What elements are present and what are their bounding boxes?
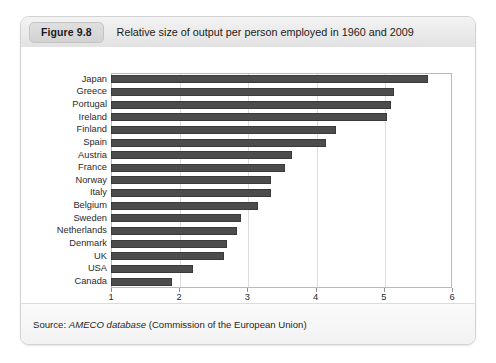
y-axis-tick: Denmark (21, 237, 107, 250)
source-suffix: (Commission of the European Union) (149, 319, 307, 330)
source-prefix: Source: (33, 319, 66, 330)
bar (111, 126, 336, 134)
bar (111, 151, 292, 159)
bar-row (111, 212, 452, 225)
bar-row (111, 225, 452, 238)
figure-title: Relative size of output per person emplo… (117, 26, 414, 38)
bar (111, 189, 271, 197)
figure-number-badge: Figure 9.8 (29, 22, 104, 43)
bar (111, 164, 285, 172)
bar (111, 139, 326, 147)
y-axis-tick: Japan (21, 73, 107, 86)
bar (111, 202, 258, 210)
y-axis-tick: France (21, 161, 107, 174)
bar (111, 214, 241, 222)
bar-row (111, 86, 452, 99)
x-axis-tick-label: 3 (245, 293, 250, 302)
bar (111, 88, 394, 96)
x-axis-tick-label: 1 (108, 293, 113, 302)
y-axis-tick-label: Finland (77, 125, 108, 134)
y-axis-tick: Norway (21, 174, 107, 187)
y-axis-tick-label: Denmark (69, 239, 107, 248)
bar (111, 113, 387, 121)
bar (111, 75, 428, 83)
source-text: Source: AMECO database (Commission of th… (33, 319, 307, 330)
y-axis-tick-label: Netherlands (57, 226, 107, 235)
y-axis-tick-label: Austria (78, 151, 107, 160)
bar-row (111, 275, 452, 288)
bar (111, 278, 172, 286)
bar (111, 240, 227, 248)
bar-row (111, 263, 452, 276)
y-axis-tick-label: Spain (83, 138, 107, 147)
y-axis-tick: Finland (21, 124, 107, 137)
y-axis-tick: Sweden (21, 212, 107, 225)
y-axis-tick: UK (21, 250, 107, 263)
x-axis-tick-label: 2 (177, 293, 182, 302)
bar (111, 227, 237, 235)
y-axis-tick: Belgium (21, 199, 107, 212)
bar-row (111, 136, 452, 149)
bar-row (111, 237, 452, 250)
y-axis-tick: Canada (21, 275, 107, 288)
y-axis-category-labels: JapanGreecePortugalIrelandFinlandSpainAu… (21, 73, 107, 288)
y-axis-tick-label: Belgium (73, 201, 107, 210)
bar-row (111, 187, 452, 200)
y-axis-tick: Portugal (21, 98, 107, 111)
y-axis-tick: Greece (21, 86, 107, 99)
y-axis-tick: Netherlands (21, 225, 107, 238)
y-axis-tick-label: Canada (74, 277, 107, 286)
source-database-name: AMECO database (69, 319, 146, 330)
bar (111, 176, 271, 184)
bar-row (111, 174, 452, 187)
y-axis-tick-label: Portugal (72, 100, 107, 109)
bar-row (111, 124, 452, 137)
x-axis-tick-label: 6 (449, 293, 454, 302)
bar (111, 101, 391, 109)
bar-row (111, 199, 452, 212)
y-axis-tick-label: UK (94, 252, 107, 261)
bar (111, 265, 193, 273)
y-axis-tick: USA (21, 263, 107, 276)
y-axis-tick-label: France (78, 163, 107, 172)
y-axis-tick: Austria (21, 149, 107, 162)
bar-row (111, 73, 452, 86)
chart-plot-region: JapanGreecePortugalIrelandFinlandSpainAu… (21, 47, 475, 304)
bar-series (111, 73, 452, 288)
y-axis-tick: Spain (21, 136, 107, 149)
figure-header: Figure 9.8 Relative size of output per p… (21, 17, 475, 48)
bar-row (111, 149, 452, 162)
bar-row (111, 161, 452, 174)
bar-row (111, 250, 452, 263)
y-axis-tick-label: Japan (82, 75, 107, 84)
y-axis-tick-label: Greece (77, 87, 108, 96)
y-axis-tick: Ireland (21, 111, 107, 124)
bar-row (111, 98, 452, 111)
bar-row (111, 111, 452, 124)
y-axis-tick-label: Ireland (79, 113, 107, 122)
x-axis-tick-label: 5 (381, 293, 386, 302)
y-axis-tick-label: USA (88, 264, 107, 273)
figure-card: Figure 9.8 Relative size of output per p… (20, 16, 476, 345)
bar (111, 252, 224, 260)
figure-source-footer: Source: AMECO database (Commission of th… (21, 303, 475, 344)
y-axis-tick: Italy (21, 187, 107, 200)
y-axis-tick-label: Italy (90, 188, 107, 197)
y-axis-tick-label: Sweden (73, 214, 107, 223)
y-axis-tick-label: Norway (75, 176, 107, 185)
x-axis-tick-label: 4 (313, 293, 318, 302)
